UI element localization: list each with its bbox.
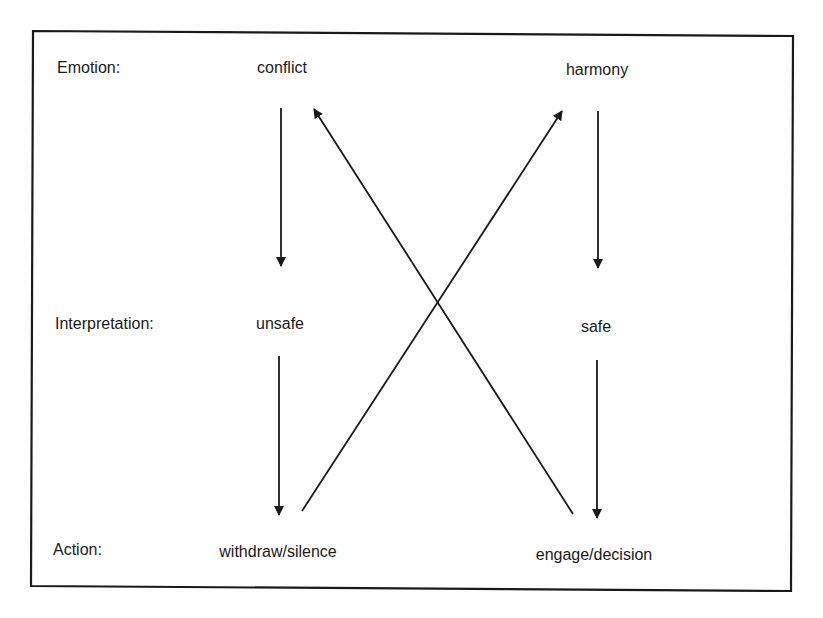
row-label-action: Action: [53,541,102,559]
node-withdraw-silence: withdraw/silence [219,543,336,561]
node-harmony: harmony [566,61,628,79]
diagram-frame [31,31,793,591]
node-engage-decision: engage/decision [536,546,653,564]
node-safe: safe [581,318,611,336]
row-label-interpretation: Interpretation: [55,315,154,333]
node-unsafe: unsafe [256,315,304,333]
arrow-withdraw-to-harmony [302,111,562,511]
row-label-emotion: Emotion: [57,59,120,77]
diagram-canvas [0,0,823,618]
node-conflict: conflict [257,59,307,77]
arrow-engage-to-conflict [314,109,573,514]
